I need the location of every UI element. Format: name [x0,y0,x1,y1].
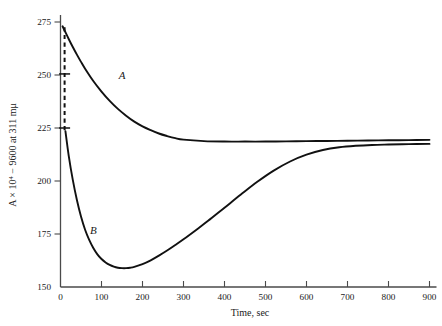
x-tick-label-700: 700 [341,292,355,302]
curve-label-A: A [118,69,126,81]
line-chart: 1501752002252502750100200300400500600700… [0,0,442,326]
x-tick-label-900: 900 [423,292,437,302]
curve-labels: AB [90,69,126,236]
x-tick-label-500: 500 [259,292,273,302]
y-tick-label-175: 175 [37,229,51,239]
data-curves [63,26,430,268]
y-tick-label-225: 225 [37,123,51,133]
x-tick-label-0: 0 [58,292,63,302]
x-axis-title: Time, sec [231,307,270,318]
curve-label-B: B [90,224,97,236]
x-tick-label-100: 100 [95,292,109,302]
y-axis-title-tail: − 9600 at 311 mμ [7,103,18,176]
svg-text:A × 104 − 9600 at 311 mμ: A × 104 − 9600 at 311 mμ [7,103,18,207]
x-tick-label-400: 400 [218,292,232,302]
x-tick-label-200: 200 [136,292,150,302]
curve-B [65,131,429,268]
y-axis-title-lead: A × 10 [7,180,18,207]
y-tick-label-150: 150 [37,282,51,292]
tick-labels: 1501752002252502750100200300400500600700… [37,17,437,301]
y-tick-label-250: 250 [37,70,51,80]
curve-A [63,26,430,141]
y-tick-label-200: 200 [37,176,51,186]
x-tick-label-600: 600 [300,292,314,302]
tick-marks [55,22,430,287]
x-tick-label-300: 300 [177,292,191,302]
figure-root: 1501752002252502750100200300400500600700… [0,0,442,326]
x-tick-label-800: 800 [382,292,396,302]
y-axis-title: A × 104 − 9600 at 311 mμ [7,103,18,207]
axes [61,15,437,287]
y-tick-label-275: 275 [37,17,51,27]
